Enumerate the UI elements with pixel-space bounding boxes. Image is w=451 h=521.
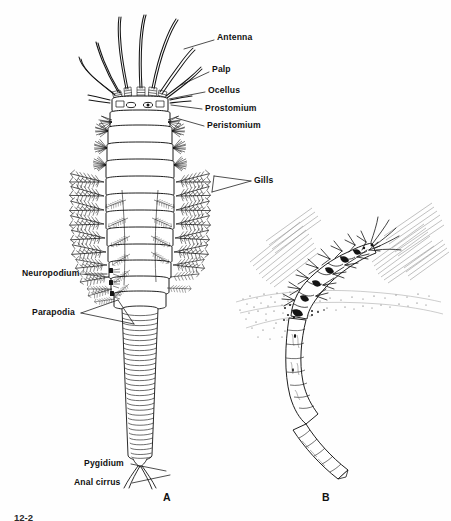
- figure-canvas: Antenna Palp Ocellus Prostomium Peristom…: [0, 0, 451, 521]
- label-neuropodium: Neuropodium: [22, 269, 80, 278]
- sediment-contour: [236, 290, 443, 328]
- background-hatching: [250, 203, 449, 287]
- burrow-tube: [286, 318, 318, 424]
- label-ocellus: Ocellus: [208, 86, 240, 95]
- sediment-surface: [239, 292, 429, 340]
- label-anal-cirrus: Anal cirrus: [74, 478, 121, 487]
- figure-b-artwork: [0, 0, 451, 521]
- protruding-anterior: [282, 217, 401, 319]
- panel-letter-a: A: [163, 492, 171, 503]
- label-prostomium: Prostomium: [205, 104, 257, 113]
- label-pygidium: Pygidium: [84, 459, 124, 468]
- label-parapodia: Parapodia: [32, 308, 75, 317]
- burrow-tube-lower: [293, 424, 348, 479]
- label-antenna: Antenna: [217, 33, 252, 42]
- figure-caption-number: 12-2: [14, 513, 33, 521]
- label-gills: Gills: [254, 176, 273, 185]
- panel-letter-b: B: [322, 492, 330, 503]
- label-palp: Palp: [212, 65, 231, 74]
- label-peristomium: Peristomium: [207, 121, 261, 130]
